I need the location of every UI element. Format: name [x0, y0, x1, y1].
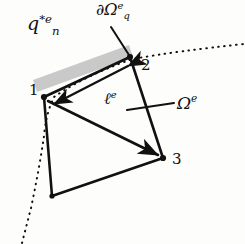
flux-label-superscript: *e	[39, 12, 52, 26]
domain-label-base: Ω	[177, 93, 191, 113]
element-edge-4-1	[44, 97, 52, 196]
element-edge-3-4	[52, 158, 163, 196]
figure-container: q*en ∂Ωeq ℓe Ωe 1 2 3	[0, 0, 245, 244]
diagram-canvas	[0, 0, 245, 244]
boundary-label: ∂Ωeq	[96, 2, 130, 18]
boundary-label-subscript: q	[123, 10, 129, 21]
node-dot-2	[127, 54, 133, 60]
node-dot-3	[160, 155, 166, 161]
node-dot-1	[41, 94, 47, 100]
edge-length-label-base: ℓ	[104, 89, 111, 108]
domain-leader-line	[127, 103, 174, 110]
flux-label: q*en	[27, 14, 60, 33]
node-dot-4	[49, 193, 54, 198]
node-label-2: 2	[141, 58, 151, 73]
edge-length-label-superscript: e	[111, 89, 117, 100]
domain-label-superscript: e	[191, 92, 197, 104]
edge-length-label: ℓe	[104, 91, 117, 107]
flux-label-base: q	[27, 12, 39, 34]
node-label-3: 3	[172, 152, 182, 167]
boundary-label-base: ∂Ω	[96, 0, 118, 19]
flux-label-subscript: n	[52, 24, 60, 38]
flux-band	[33, 45, 133, 92]
node-label-1: 1	[29, 83, 39, 98]
diagonal-1-3	[48, 101, 158, 155]
domain-label: Ωe	[177, 95, 197, 112]
